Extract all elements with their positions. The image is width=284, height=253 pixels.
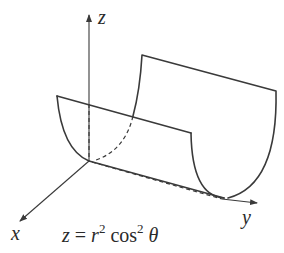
x-axis-label: x (11, 222, 20, 245)
eq-equals: = (70, 224, 91, 246)
back-surface-edge (133, 55, 276, 198)
back-parabola-hidden (96, 116, 133, 160)
x-axis (20, 161, 89, 221)
y-axis-label: y (242, 206, 251, 229)
equation: z = r2 cos2 θ (62, 221, 158, 247)
eq-cos: cos (105, 224, 137, 246)
eq-z: z (62, 224, 70, 246)
z-axis-label: z (98, 6, 106, 29)
eq-theta: θ (144, 224, 159, 246)
bottom-edge (89, 161, 224, 198)
right-parabola (191, 133, 224, 198)
y-axis (222, 199, 257, 203)
front-parabola (57, 96, 89, 161)
eq-r: r (91, 224, 99, 246)
front-top-edge (57, 96, 191, 133)
